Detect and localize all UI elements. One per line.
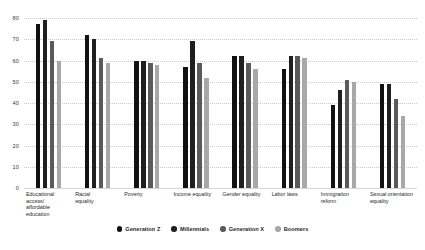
bar[interactable] bbox=[394, 99, 398, 188]
bar[interactable] bbox=[99, 58, 103, 188]
bar[interactable] bbox=[352, 82, 356, 188]
bar[interactable] bbox=[141, 61, 145, 189]
legend-label: Boomers bbox=[284, 226, 309, 232]
y-tick-label: 50 bbox=[13, 79, 19, 85]
legend-item[interactable]: Boomers bbox=[275, 226, 308, 232]
bar[interactable] bbox=[232, 56, 236, 188]
bar[interactable] bbox=[246, 63, 250, 188]
y-tick-label: 70 bbox=[13, 36, 19, 42]
bar[interactable] bbox=[183, 67, 187, 188]
bar[interactable] bbox=[387, 84, 391, 188]
bar-group bbox=[221, 18, 270, 188]
bar[interactable] bbox=[36, 24, 40, 188]
bar[interactable] bbox=[289, 56, 293, 188]
x-axis-label: Income equality bbox=[171, 191, 220, 217]
bar-group bbox=[171, 18, 220, 188]
bar[interactable] bbox=[190, 41, 194, 188]
bar[interactable] bbox=[50, 41, 54, 188]
legend-item[interactable]: Millennials bbox=[171, 226, 209, 232]
bar-groups bbox=[24, 18, 417, 188]
x-axis-label: Immigration reform bbox=[319, 191, 368, 217]
bar[interactable] bbox=[204, 78, 208, 189]
legend-swatch-dot-icon bbox=[171, 226, 177, 232]
gridline bbox=[24, 188, 417, 189]
bar[interactable] bbox=[148, 63, 152, 188]
x-axis-label: Racial equality bbox=[73, 191, 122, 217]
legend-label: Generation X bbox=[229, 226, 264, 232]
bar[interactable] bbox=[295, 56, 299, 188]
legend-item[interactable]: Generation X bbox=[220, 226, 264, 232]
y-tick-label: 80 bbox=[13, 15, 19, 21]
x-axis: Educational access/ affordable education… bbox=[24, 191, 417, 217]
bar[interactable] bbox=[282, 69, 286, 188]
bar[interactable] bbox=[401, 116, 405, 188]
x-axis-label: Poverty bbox=[122, 191, 171, 217]
bar-group bbox=[270, 18, 319, 188]
legend-swatch-dot-icon bbox=[275, 226, 281, 232]
y-tick-label: 20 bbox=[13, 143, 19, 149]
y-tick-label: 30 bbox=[13, 121, 19, 127]
x-axis-label: Gender equality bbox=[221, 191, 270, 217]
legend-swatch-dot-icon bbox=[220, 226, 226, 232]
bar[interactable] bbox=[239, 56, 243, 188]
legend-label: Generation Z bbox=[125, 226, 160, 232]
bar-group bbox=[368, 18, 417, 188]
x-axis-label: Sexual orientation equality bbox=[368, 191, 417, 217]
bar-group bbox=[122, 18, 171, 188]
y-tick-label: 60 bbox=[13, 58, 19, 64]
bar[interactable] bbox=[155, 65, 159, 188]
y-axis: 80706050403020100 bbox=[0, 18, 22, 188]
y-tick-label: 0 bbox=[16, 185, 19, 191]
y-tick-label: 40 bbox=[13, 100, 19, 106]
bar[interactable] bbox=[338, 90, 342, 188]
legend-swatch-dot-icon bbox=[117, 226, 123, 232]
y-tick-label: 10 bbox=[13, 164, 19, 170]
bar[interactable] bbox=[43, 20, 47, 188]
legend-item[interactable]: Generation Z bbox=[117, 226, 161, 232]
bar[interactable] bbox=[106, 63, 110, 188]
bar[interactable] bbox=[345, 80, 349, 188]
bar-group bbox=[319, 18, 368, 188]
bar[interactable] bbox=[57, 61, 61, 189]
x-axis-label: Educational access/ affordable education bbox=[24, 191, 73, 217]
bar[interactable] bbox=[380, 84, 384, 188]
bar-group bbox=[24, 18, 73, 188]
bar[interactable] bbox=[92, 39, 96, 188]
bar[interactable] bbox=[197, 63, 201, 188]
bar[interactable] bbox=[253, 69, 257, 188]
bar-group bbox=[73, 18, 122, 188]
x-axis-label: Labor laws bbox=[270, 191, 319, 217]
bar-chart: 80706050403020100 Educational access/ af… bbox=[0, 0, 425, 250]
bar[interactable] bbox=[85, 35, 89, 188]
bar[interactable] bbox=[302, 58, 306, 188]
bar[interactable] bbox=[134, 61, 138, 189]
legend-label: Millennials bbox=[180, 226, 209, 232]
legend: Generation ZMillennialsGeneration XBoome… bbox=[0, 226, 425, 232]
bar[interactable] bbox=[331, 105, 335, 188]
plot-area bbox=[24, 18, 417, 188]
